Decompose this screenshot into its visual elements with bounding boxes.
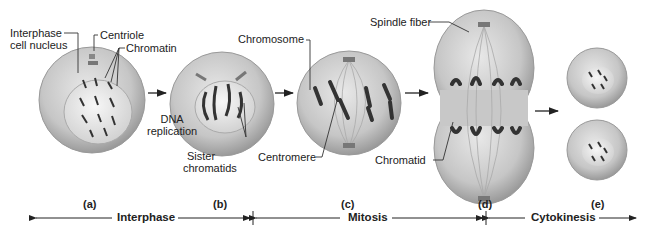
label-centromere: Centromere	[258, 151, 316, 163]
phase-label-cytokinesis: Cytokinesis	[528, 211, 599, 223]
stage-label-a: (a)	[83, 198, 96, 210]
label-line: Interphase	[10, 27, 67, 39]
label-line: Sister	[183, 150, 237, 162]
label-dna-replication: DNA replication	[147, 113, 197, 137]
label-line: cell nucleus	[10, 39, 67, 51]
phase-label-mitosis: Mitosis	[345, 211, 391, 223]
cell-e	[567, 48, 627, 180]
cell-d	[434, 10, 534, 204]
label-sister-chromatids: Sister chromatids	[183, 150, 237, 174]
stage-label-c: (c)	[341, 198, 354, 210]
phase-label-interphase: Interphase	[114, 211, 178, 223]
stage-label-d: (d)	[478, 198, 492, 210]
label-line: chromatids	[183, 162, 237, 174]
cell-a	[39, 47, 145, 153]
label-chromatid: Chromatid	[375, 154, 426, 166]
cell-c	[297, 51, 401, 155]
label-chromatin: Chromatin	[126, 42, 177, 54]
label-chromosome: Chromosome	[238, 33, 304, 45]
label-centriole: Centriole	[100, 29, 144, 41]
label-interphase-nucleus: Interphase cell nucleus	[10, 27, 67, 51]
cell-b	[170, 52, 274, 156]
stage-label-b: (b)	[213, 198, 227, 210]
label-line: DNA	[147, 113, 197, 125]
label-line: replication	[147, 125, 197, 137]
stage-label-e: (e)	[591, 198, 604, 210]
label-spindle-fiber: Spindle fiber	[370, 16, 431, 28]
cell-cycle-artwork	[0, 0, 650, 237]
